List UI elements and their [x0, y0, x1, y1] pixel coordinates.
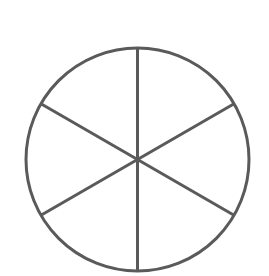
circle-divided-into-six-sectors	[0, 0, 269, 276]
